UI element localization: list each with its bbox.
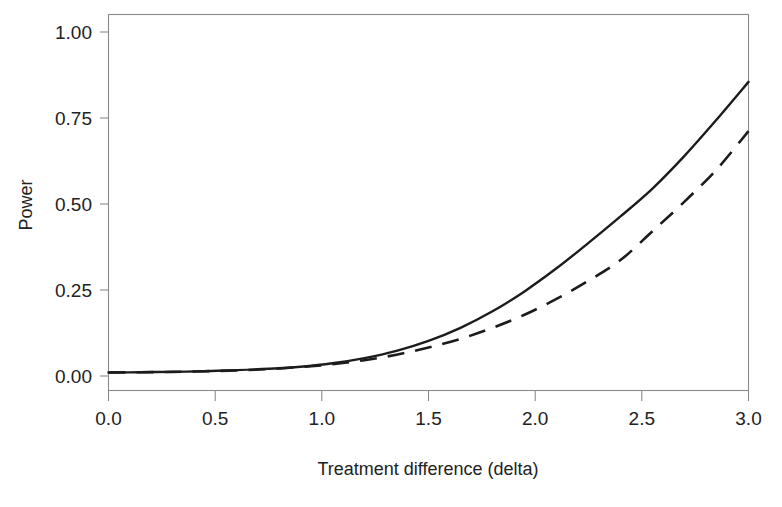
x-tick-label: 2.5	[629, 408, 655, 429]
y-axis-title: Power	[16, 179, 36, 230]
x-tick-label: 0.5	[202, 408, 228, 429]
y-tick-label: 1.00	[55, 22, 92, 43]
x-tick-label: 0.0	[95, 408, 121, 429]
x-tick-label: 1.5	[415, 408, 441, 429]
y-tick-label: 0.00	[55, 366, 92, 387]
y-tick-label: 0.50	[55, 194, 92, 215]
x-tick-label: 1.0	[309, 408, 335, 429]
figure-caption	[0, 0, 782, 3]
y-tick-label: 0.25	[55, 280, 92, 301]
x-tick-label: 3.0	[735, 408, 761, 429]
chart-background	[0, 0, 782, 507]
y-tick-label: 0.75	[55, 108, 92, 129]
power-curve-chart: 1.00 0.75 0.50 0.25 0.00 0.0 0.5 1.0 1.5…	[0, 0, 782, 507]
x-tick-label: 2.0	[522, 408, 548, 429]
x-axis-title: Treatment difference (delta)	[317, 459, 538, 479]
figure-container: 1.00 0.75 0.50 0.25 0.00 0.0 0.5 1.0 1.5…	[0, 0, 782, 507]
